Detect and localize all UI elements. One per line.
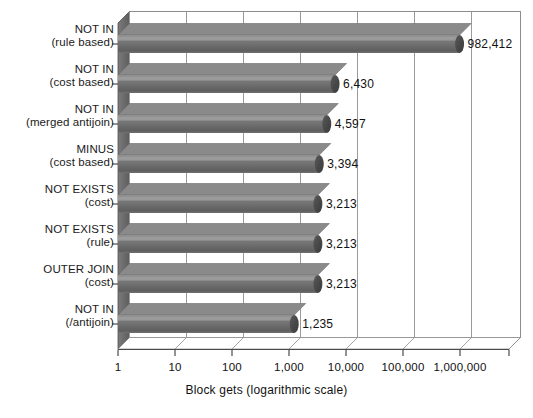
- category-label-line1: OUTER JOIN: [0, 263, 114, 276]
- bar-highlight: [118, 158, 319, 161]
- category-label-line2: (rule based): [0, 36, 114, 49]
- bar-value-label-4: 3,213: [326, 198, 357, 210]
- category-label-line1: MINUS: [0, 143, 114, 156]
- bar-end-cap: [290, 315, 299, 333]
- bar-top-face: [118, 264, 329, 276]
- bar-highlight: [118, 278, 318, 281]
- bar-value-label-3: 3,394: [327, 158, 358, 170]
- category-label-2: NOT IN (merged antijoin): [0, 103, 114, 129]
- category-label-3: MINUS (cost based): [0, 143, 114, 169]
- bar-highlight: [118, 238, 318, 241]
- bar-value-label-7: 1,235: [302, 318, 333, 330]
- bar-highlight: [118, 38, 460, 41]
- category-label-line2: (merged antijoin): [0, 116, 114, 129]
- category-label-line1: NOT IN: [0, 63, 114, 76]
- bar-end-cap: [315, 155, 324, 173]
- bar-end-cap: [313, 195, 322, 213]
- bar-chart: NOT IN (rule based) NOT IN (cost based) …: [0, 0, 533, 418]
- category-label-4: NOT EXISTS (cost): [0, 183, 114, 209]
- bar-top-face: [118, 184, 329, 196]
- bar-end-cap: [455, 35, 464, 53]
- category-label-line2: (cost): [0, 276, 114, 289]
- bar-top-face: [118, 224, 329, 236]
- x-tick-label-3: 1,000: [274, 361, 304, 373]
- category-label-5: NOT EXISTS (rule): [0, 223, 114, 249]
- category-label-7: NOT IN (/antijoin): [0, 303, 114, 329]
- bar-top-face: [118, 24, 471, 36]
- bar-top-face: [118, 304, 306, 316]
- category-label-0: NOT IN (rule based): [0, 23, 114, 49]
- bar-highlight: [118, 118, 327, 121]
- x-tick-label-1: 10: [168, 361, 181, 373]
- category-label-1: NOT IN (cost based): [0, 63, 114, 89]
- bar-top-face: [118, 144, 331, 156]
- category-label-line2: (rule): [0, 236, 114, 249]
- axis-floor: [118, 338, 521, 350]
- bar-value-label-1: 6,430: [343, 78, 374, 90]
- x-axis-ticks: [118, 350, 509, 357]
- category-label-line2: (cost based): [0, 76, 114, 89]
- category-label-line2: (cost based): [0, 156, 114, 169]
- bar-value-label-2: 4,597: [335, 118, 366, 130]
- category-label-line1: NOT IN: [0, 303, 114, 316]
- category-label-line1: NOT EXISTS: [0, 223, 114, 236]
- x-tick-label-4: 10,000: [328, 361, 364, 373]
- axis-side-wall: [118, 12, 130, 350]
- bar-end-cap: [331, 75, 340, 93]
- bar-top-face: [118, 64, 347, 76]
- category-label-line1: NOT IN: [0, 103, 114, 116]
- bar-end-cap: [313, 275, 322, 293]
- category-label-line2: (/antijoin): [0, 316, 114, 329]
- category-label-6: OUTER JOIN (cost): [0, 263, 114, 289]
- x-tick-label-2: 100: [222, 361, 242, 373]
- bar-value-label-0: 982,412: [468, 38, 513, 50]
- x-tick-label-6: 1,000,000: [434, 361, 487, 373]
- bar-highlight: [118, 78, 335, 81]
- category-label-line1: NOT IN: [0, 23, 114, 36]
- x-tick-label-5: 100,000: [382, 361, 425, 373]
- bar-value-label-6: 3,213: [326, 278, 357, 290]
- bar-top-face: [118, 104, 338, 116]
- bar-value-label-5: 3,213: [326, 238, 357, 250]
- x-tick-label-0: 1: [115, 361, 122, 373]
- category-label-line1: NOT EXISTS: [0, 183, 114, 196]
- category-label-line2: (cost): [0, 196, 114, 209]
- bar-end-cap: [322, 115, 331, 133]
- bar-highlight: [118, 318, 294, 321]
- x-axis-title: Block gets (logarithmic scale): [0, 383, 533, 397]
- bar-end-cap: [313, 235, 322, 253]
- bar-highlight: [118, 198, 318, 201]
